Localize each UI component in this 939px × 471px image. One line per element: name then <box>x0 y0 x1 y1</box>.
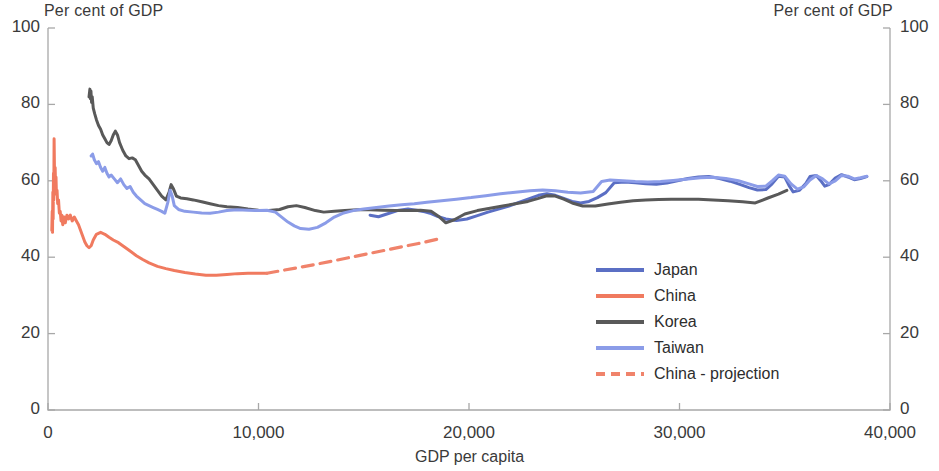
legend-label: China <box>654 287 696 305</box>
legend-swatch-china <box>596 294 644 298</box>
legend-item[interactable]: Korea <box>596 310 779 334</box>
legend-swatch-china-projection <box>596 372 644 376</box>
series-line-taiwan <box>91 154 867 229</box>
plot-area <box>0 0 939 471</box>
series-line-korea <box>89 89 787 223</box>
y-axis-tick-label-left: 20 <box>0 323 40 343</box>
legend-item[interactable]: China - projection <box>596 362 779 386</box>
y-axis-tick-label-right: 40 <box>900 246 939 266</box>
legend-label: Korea <box>654 313 697 331</box>
legend-label: Taiwan <box>654 339 704 357</box>
y-axis-tick-label-right: 60 <box>900 170 939 190</box>
y-axis-tick-label-right: 0 <box>900 399 939 419</box>
legend-item[interactable]: China <box>596 284 779 308</box>
legend-label: Japan <box>654 261 698 279</box>
legend-swatch-korea <box>596 320 644 324</box>
y-axis-tick-label-right: 80 <box>900 93 939 113</box>
legend-item[interactable]: Taiwan <box>596 336 779 360</box>
x-axis-tick-label: 0 <box>43 423 52 443</box>
chart-legend: JapanChinaKoreaTaiwanChina - projection <box>596 258 779 386</box>
y-axis-tick-label-left: 0 <box>0 399 40 419</box>
x-axis-tick-label: 20,000 <box>443 423 495 443</box>
x-axis-tick-label: 30,000 <box>654 423 706 443</box>
legend-swatch-taiwan <box>596 346 644 350</box>
y-axis-tick-label-left: 60 <box>0 170 40 190</box>
x-axis-tick-label: 10,000 <box>233 423 285 443</box>
y-axis-tick-label-left: 80 <box>0 93 40 113</box>
y-axis-tick-label-left: 40 <box>0 246 40 266</box>
y-axis-tick-label-right: 20 <box>900 323 939 343</box>
series-line-china-projection <box>267 239 438 273</box>
x-axis-title: GDP per capita <box>0 448 939 466</box>
legend-item[interactable]: Japan <box>596 258 779 282</box>
y-axis-tick-label-right: 100 <box>900 17 939 37</box>
x-axis-tick-label: 40,000 <box>864 423 916 443</box>
legend-label: China - projection <box>654 365 779 383</box>
y-axis-tick-label-left: 100 <box>0 17 40 37</box>
legend-swatch-japan <box>596 268 644 272</box>
chart-figure: Per cent of GDP Per cent of GDP GDP per … <box>0 0 939 471</box>
